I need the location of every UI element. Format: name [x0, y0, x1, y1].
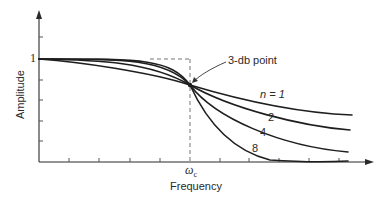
y-axis-title: Amplitude [14, 70, 26, 119]
curve-label-n1: n = 1 [260, 88, 285, 100]
y-axis-arrow-icon [36, 10, 42, 19]
curve-label-n2: 2 [268, 111, 274, 123]
x-axis-title: Frequency [170, 180, 222, 192]
x-axis-arrow-icon [365, 159, 374, 165]
annotation-arrow [193, 62, 226, 82]
curve-label-n4: 4 [260, 126, 266, 138]
y-tick-label-1: 1 [30, 51, 36, 66]
curve-n4 [39, 59, 348, 152]
3db-point-label: 3-db point [228, 54, 277, 66]
ideal-cutoff-dashed [150, 59, 190, 162]
response-curves [39, 59, 352, 162]
omega-subscript: c [193, 170, 197, 179]
x-tick-label-omega-c: ωc [185, 163, 197, 179]
3db-point-marker [188, 83, 192, 87]
curve-label-n8: 8 [252, 142, 258, 154]
curve-n1 [39, 59, 352, 115]
y-ticks [39, 37, 43, 141]
